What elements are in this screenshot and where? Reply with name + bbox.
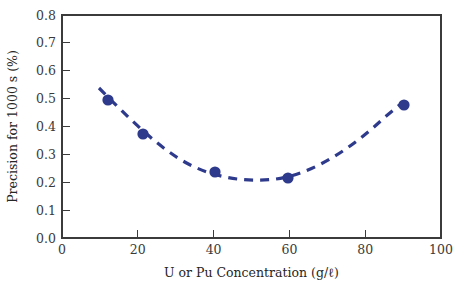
chart-canvas: 0.0 0.1 0.2 0.3 0.4 0.5 0.6 0.7 0.8 0 20… (0, 0, 469, 287)
x-tick-label-3: 60 (281, 242, 297, 257)
data-point (209, 166, 220, 177)
y-tick-label-5: 0.5 (36, 91, 56, 106)
x-axis-tick-labels: 0 20 40 60 80 100 (58, 242, 453, 257)
y-tick-label-3: 0.3 (36, 147, 56, 162)
x-axis-title: U or Pu Concentration (g/ℓ) (164, 265, 339, 280)
x-tick-label-0: 0 (58, 242, 66, 257)
y-tick-label-2: 0.2 (36, 175, 56, 190)
y-axis-ticks (62, 15, 70, 238)
x-axis-ticks (62, 230, 441, 238)
data-point (282, 172, 293, 183)
data-point (137, 128, 148, 139)
plot-frame (62, 15, 441, 238)
x-tick-label-2: 40 (206, 242, 222, 257)
chart-figure: 0.0 0.1 0.2 0.3 0.4 0.5 0.6 0.7 0.8 0 20… (0, 0, 469, 287)
data-point (102, 94, 113, 105)
y-tick-label-1: 0.1 (36, 203, 56, 218)
axis-frame-path (62, 15, 441, 238)
x-tick-label-1: 20 (130, 242, 146, 257)
y-axis-tick-labels: 0.0 0.1 0.2 0.3 0.4 0.5 0.6 0.7 0.8 (36, 8, 56, 246)
y-tick-label-4: 0.4 (36, 119, 56, 134)
y-tick-label-7: 0.7 (36, 35, 56, 50)
y-tick-label-6: 0.6 (36, 63, 56, 78)
y-tick-label-8: 0.8 (36, 8, 56, 23)
y-axis-title: Precision for 1000 s (%) (5, 50, 20, 203)
data-markers (102, 94, 409, 183)
y-tick-label-0: 0.0 (36, 231, 56, 246)
data-point (398, 99, 409, 110)
x-tick-label-4: 80 (357, 242, 373, 257)
x-tick-label-5: 100 (429, 242, 453, 257)
